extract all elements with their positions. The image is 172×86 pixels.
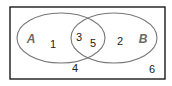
element-b-only-2: 2 bbox=[117, 35, 123, 47]
element-outside-6: 6 bbox=[149, 63, 155, 75]
set-b-label: B bbox=[139, 32, 148, 46]
element-intersection-5: 5 bbox=[90, 37, 96, 49]
venn-diagram: A B 1 3 5 2 4 6 bbox=[0, 0, 172, 86]
element-intersection-3: 3 bbox=[76, 31, 82, 43]
element-a-only-1: 1 bbox=[50, 38, 56, 50]
set-a-label: A bbox=[26, 32, 36, 46]
element-outside-4: 4 bbox=[72, 62, 78, 74]
